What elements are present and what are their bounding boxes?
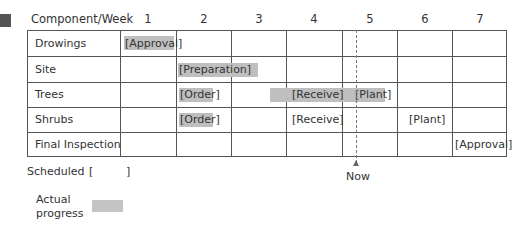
row-label-site: Site [35, 63, 56, 76]
now-label: Now [346, 170, 370, 183]
grid-line [28, 132, 506, 133]
gantt-table: Drowings Site Trees Shrubs Final Inspect… [27, 30, 507, 157]
now-dashed-line [356, 30, 357, 163]
legend-scheduled-open-bracket: [ [89, 165, 93, 179]
now-arrow-icon [353, 160, 359, 166]
row-label-shrubs: Shrubs [35, 113, 73, 126]
row-label-final-inspection: Final Inspection [35, 138, 121, 151]
legend-actual-swatch [92, 200, 123, 212]
grid-line [397, 31, 398, 156]
header-week-7: 7 [452, 12, 508, 26]
header-week-4: 4 [286, 12, 342, 26]
task-drawings-approval: [Approval] [125, 37, 182, 50]
task-trees-plant: [Plant] [355, 88, 391, 101]
header-week-6: 6 [397, 12, 453, 26]
row-label-drawings: Drowings [35, 37, 86, 50]
task-trees-order: [Order] [180, 88, 220, 101]
task-final-approval: [Approval] [455, 138, 512, 151]
header-week-5: 5 [342, 12, 398, 26]
grid-line [231, 31, 232, 156]
grid-line [28, 82, 506, 83]
legend-scheduled-close-bracket: ] [126, 165, 130, 179]
legend-scheduled-label: Scheduled [27, 165, 85, 179]
task-shrubs-plant: [Plant] [409, 113, 445, 126]
grid-line [28, 56, 506, 57]
header-week-3: 3 [231, 12, 287, 26]
legend-actual-label-line1: Actual [36, 193, 70, 207]
grid-line [452, 31, 453, 156]
header-week-2: 2 [176, 12, 232, 26]
task-site-preparation: [Preparation] [179, 63, 251, 76]
header-component-week: Component/Week [31, 12, 133, 26]
task-shrubs-receive: [Receive] [292, 113, 344, 126]
grid-line [28, 107, 506, 108]
header-week-1: 1 [120, 12, 176, 26]
corner-marker [0, 14, 11, 27]
task-trees-receive: [Receive] [292, 88, 344, 101]
row-label-trees: Trees [35, 88, 64, 101]
task-shrubs-order: [Order] [180, 113, 220, 126]
legend-actual-label-line2: progress [36, 207, 84, 221]
